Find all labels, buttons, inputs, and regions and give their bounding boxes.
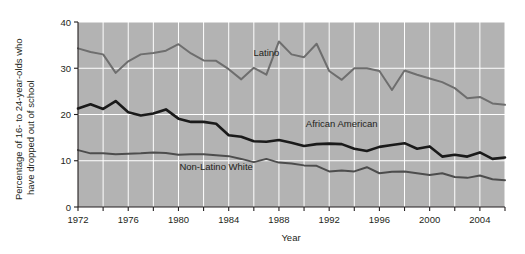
y-axis-title-line-1: Percentage of 16- to 24-year-olds who bbox=[13, 38, 24, 200]
x-tick-label: 1972 bbox=[67, 214, 88, 225]
y-axis-title-line-2: have dropped out of school bbox=[25, 80, 36, 195]
x-axis-ticks-group: 197219761980198419881992199620002004 bbox=[67, 207, 505, 225]
x-tick-label: 2000 bbox=[419, 214, 440, 225]
y-tick-label: 0 bbox=[66, 202, 71, 213]
x-tick-label: 1988 bbox=[268, 214, 289, 225]
x-tick-label: 2004 bbox=[469, 214, 490, 225]
x-tick-label: 1976 bbox=[118, 214, 139, 225]
y-axis-ticks-group: 010203040 bbox=[60, 17, 78, 213]
y-tick-label: 10 bbox=[60, 155, 71, 166]
y-tick-label: 20 bbox=[60, 109, 71, 120]
plot-background-group bbox=[78, 22, 505, 207]
series-label-latino: Latino bbox=[253, 47, 279, 58]
x-axis-title: Year bbox=[281, 232, 300, 243]
y-tick-label: 30 bbox=[60, 63, 71, 74]
x-tick-label: 1992 bbox=[319, 214, 340, 225]
figure-container: 010203040 197219761980198419881992199620… bbox=[0, 0, 525, 254]
series-label-african-american: African American bbox=[306, 118, 378, 129]
x-tick-label: 1980 bbox=[168, 214, 189, 225]
series-label-non-latino-white: Non-Latino White bbox=[179, 161, 252, 172]
dropout-rate-line-chart: 010203040 197219761980198419881992199620… bbox=[0, 0, 525, 254]
x-tick-label: 1996 bbox=[369, 214, 390, 225]
x-tick-label: 1984 bbox=[218, 214, 239, 225]
y-axis-title: Percentage of 16- to 24-year-olds who ha… bbox=[13, 38, 36, 200]
y-tick-label: 40 bbox=[60, 17, 71, 28]
